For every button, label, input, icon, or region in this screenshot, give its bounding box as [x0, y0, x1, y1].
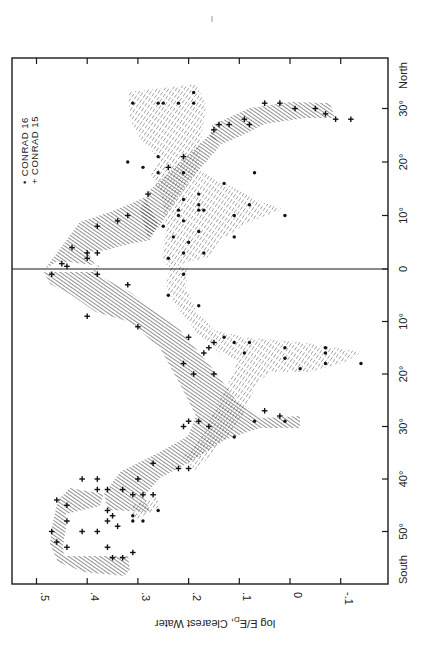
value-axis-labels: .5.4.3.2.10-.1: [39, 592, 355, 605]
dot-marker-icon: [197, 208, 200, 211]
dot-marker-icon: [182, 198, 185, 201]
dot-marker-icon: [197, 230, 200, 233]
dot-marker-icon: [233, 341, 236, 344]
plus-marker-icon: [262, 408, 268, 414]
plus-marker-icon: +: [29, 178, 40, 184]
dot-marker-icon: [283, 346, 286, 349]
dot-marker-icon: [192, 91, 195, 94]
dot-marker-icon: [182, 273, 185, 276]
value-tick-label: 0: [292, 592, 304, 598]
dot-marker-icon: [177, 214, 180, 217]
plus-marker-icon: [105, 544, 111, 550]
plus-marker-icon: [84, 313, 90, 319]
plus-marker-icon: [95, 476, 101, 482]
plus-marker-icon: [186, 466, 192, 472]
dot-marker-icon: [359, 362, 362, 365]
value-tick-label: .3: [140, 592, 152, 601]
dot-marker-icon: [324, 351, 327, 354]
dot-marker-icon: [177, 101, 180, 104]
value-tick-label: -.1: [343, 592, 355, 605]
chart: .5.4.3.2.10-.1 30°20°10°010°20°30°40°50°…: [0, 0, 429, 645]
dot-marker-icon: [131, 514, 134, 517]
dot-marker-icon: [283, 214, 286, 217]
plus-marker-icon: [95, 487, 101, 493]
plus-marker-icon: [79, 476, 85, 482]
dot-marker-icon: [324, 346, 327, 349]
dot-marker-icon: [202, 251, 205, 254]
dot-marker-icon: [324, 362, 327, 365]
dot-marker-icon: [156, 509, 159, 512]
dot-marker-icon: [197, 203, 200, 206]
dot-marker-icon: [233, 435, 236, 438]
latitude-tick-label: 30°: [397, 100, 409, 117]
dot-marker-icon: [131, 519, 134, 522]
latitude-axis-ticks: [382, 109, 388, 532]
plus-marker-icon: [262, 100, 268, 106]
plus-marker-icon: [64, 544, 70, 550]
dot-marker-icon: [141, 166, 144, 169]
dot-marker-icon: [233, 235, 236, 238]
latitude-tick-label: 0: [397, 266, 409, 272]
dot-marker-icon: [253, 420, 256, 423]
plus-marker-icon: [110, 513, 116, 519]
conrad15-south-diagonal: [44, 272, 300, 512]
plus-marker-icon: [130, 550, 136, 556]
latitude-tick-label: 10°: [397, 207, 409, 224]
latitude-tick-label: 40°: [397, 471, 409, 488]
dot-marker-icon: [177, 208, 180, 211]
dot-marker-icon: [283, 357, 286, 360]
dot-marker-icon: [283, 420, 286, 423]
dot-marker-icon: [131, 101, 134, 104]
latitude-tick-label: 20°: [397, 154, 409, 171]
dot-marker-icon: [202, 208, 205, 211]
dot-marker-icon: [192, 101, 195, 104]
north-label: North: [397, 62, 409, 89]
plus-marker-icon: [181, 424, 187, 430]
plus-marker-icon: [348, 116, 354, 122]
dot-marker-icon: [197, 192, 200, 195]
dot-marker-icon: [187, 241, 190, 244]
dot-marker-icon: [222, 336, 225, 339]
value-tick-label: .4: [89, 592, 101, 601]
dot-marker-icon: [156, 155, 159, 158]
dot-marker-icon: [197, 304, 200, 307]
latitude-tick-label: 10°: [397, 313, 409, 330]
legend-entry-conrad15: +CONRAD 15: [29, 116, 40, 184]
dot-marker-icon: [162, 225, 165, 228]
conrad15-equatorial-band: [44, 197, 158, 278]
plus-marker-icon: [105, 518, 111, 524]
value-tick-label: .5: [39, 592, 51, 601]
plus-marker-icon: [64, 264, 70, 270]
dot-marker-icon: [248, 203, 251, 206]
plus-marker-icon: [206, 345, 212, 351]
plus-marker-icon: [125, 282, 131, 288]
latitude-tick-label: 30°: [397, 418, 409, 435]
plus-marker-icon: [201, 350, 207, 356]
plus-marker-icon: [186, 418, 192, 424]
plus-marker-icon: [150, 492, 156, 498]
plus-marker-icon: [115, 523, 121, 529]
value-tick-label: .2: [191, 592, 203, 601]
dot-marker-icon: [182, 219, 185, 222]
dot-marker-icon: [248, 341, 251, 344]
plus-marker-icon: [79, 529, 85, 535]
dot-marker-icon: [233, 214, 236, 217]
dot-marker-icon: [243, 351, 246, 354]
dot-marker-icon: [162, 101, 165, 104]
dot-marker-icon: [156, 101, 159, 104]
dot-marker-icon: [182, 171, 185, 174]
plus-marker-icon: [95, 529, 101, 535]
dot-marker-icon: [167, 294, 170, 297]
dot-marker-icon: [253, 171, 256, 174]
dot-marker-icon: [298, 367, 301, 370]
south-label: South: [397, 555, 409, 584]
dot-marker-icon: [141, 519, 144, 522]
dot-marker-icon: [156, 171, 159, 174]
legend: •CONRAD 16 +CONRAD 15: [19, 116, 40, 184]
conrad15-regions: [44, 102, 335, 576]
dot-marker-icon: [222, 182, 225, 185]
dot-marker-icon: [126, 160, 129, 163]
value-tick-label: .1: [241, 592, 253, 601]
latitude-tick-label: 20°: [397, 366, 409, 383]
dot-marker-icon: [182, 251, 185, 254]
